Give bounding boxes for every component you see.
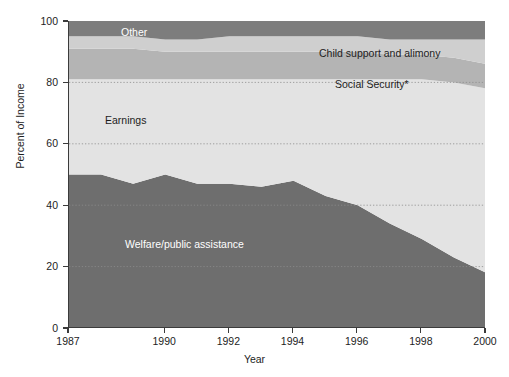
x-tick-mark-1996 <box>356 328 357 333</box>
series-label-earnings: Earnings <box>105 115 146 126</box>
x-tick-label-1996: 1996 <box>333 336 381 347</box>
x-tick-mark-1992 <box>228 328 229 333</box>
y-tick-label-0: 0 <box>18 323 58 333</box>
x-tick-mark-1998 <box>420 328 421 333</box>
series-label-child-support: Child support and alimony <box>319 48 440 59</box>
x-tick-label-1992: 1992 <box>204 336 252 347</box>
y-tick-label-60: 60 <box>18 138 58 148</box>
x-tick-label-1994: 1994 <box>269 336 317 347</box>
x-tick-mark-1990 <box>164 328 165 333</box>
x-axis-title: Year <box>0 353 509 365</box>
x-tick-label-2000: 2000 <box>461 336 509 347</box>
chart-figure: Percent of Income 020406080100 Other Chi… <box>0 0 509 377</box>
y-tick-label-100: 100 <box>18 16 58 26</box>
series-label-other: Other <box>121 27 147 38</box>
x-tick-label-1990: 1990 <box>140 336 188 347</box>
series-label-social-security: Social Security* <box>335 79 409 90</box>
y-tick-label-40: 40 <box>18 200 58 210</box>
x-tick-mark-1994 <box>292 328 293 333</box>
x-tick-label-1987: 1987 <box>44 336 92 347</box>
y-tick-label-80: 80 <box>18 77 58 87</box>
plot-clip <box>69 21 485 327</box>
series-label-welfare: Welfare/public assistance <box>125 239 244 250</box>
x-tick-mark-1987 <box>67 328 68 333</box>
y-tick-label-20: 20 <box>18 261 58 271</box>
x-tick-label-1998: 1998 <box>397 336 445 347</box>
stacked-area-series <box>69 21 485 327</box>
x-tick-mark-2000 <box>484 328 485 333</box>
plot-area: Other Child support and alimony Social S… <box>68 21 485 328</box>
